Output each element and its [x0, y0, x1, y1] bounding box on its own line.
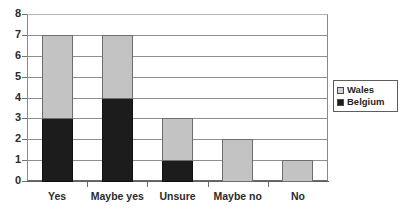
legend-label: Belgium	[347, 97, 384, 107]
x-axis-category-label: Unsure	[147, 190, 207, 202]
y-axis-tick	[22, 181, 27, 182]
y-axis-tick-label: 4	[7, 92, 21, 103]
y-axis-tick-label: 3	[7, 112, 21, 123]
bar-segment	[282, 160, 313, 182]
legend-item: Wales	[337, 84, 394, 96]
bar-segment	[102, 35, 133, 99]
y-axis-tick	[22, 77, 27, 78]
y-axis-tick-label: 1	[7, 154, 21, 165]
bar-segment	[42, 118, 73, 182]
gridline	[28, 56, 327, 57]
x-axis-category-label: Maybe no	[208, 190, 268, 202]
y-axis-tick-label: 6	[7, 50, 21, 61]
legend-item: Belgium	[337, 96, 394, 108]
bar-segment	[162, 160, 193, 182]
x-axis-category-label: Maybe yes	[87, 190, 147, 202]
bar-segment	[102, 98, 133, 183]
bar-segment	[42, 35, 73, 120]
gridline	[28, 98, 327, 99]
y-axis-tick	[22, 160, 27, 161]
x-axis-tick	[208, 182, 209, 187]
y-axis-tick-label: 0	[7, 175, 21, 186]
stacked-bar-chart: 012345678 WalesBelgium YesMaybe yesUnsur…	[0, 0, 405, 220]
y-axis-tick	[22, 98, 27, 99]
bar-segment	[162, 118, 193, 161]
legend-label: Wales	[347, 85, 374, 95]
x-axis-category-label: No	[268, 190, 328, 202]
y-axis-tick	[22, 118, 27, 119]
x-axis-tick	[268, 182, 269, 187]
gridline	[28, 77, 327, 78]
legend-swatch-icon	[337, 87, 344, 94]
legend-swatch-icon	[337, 99, 344, 106]
y-axis-tick	[22, 56, 27, 57]
y-axis-tick	[22, 14, 27, 15]
x-axis-tick	[147, 182, 148, 187]
y-axis-tick-label: 7	[7, 29, 21, 40]
chart-legend: WalesBelgium	[333, 80, 398, 112]
x-axis-tick	[87, 182, 88, 187]
y-axis-tick-label: 5	[7, 71, 21, 82]
y-axis-tick-label: 8	[7, 8, 21, 19]
gridline	[28, 35, 327, 36]
y-axis-labels: 012345678	[0, 0, 21, 220]
x-axis-category-label: Yes	[27, 190, 87, 202]
y-axis-tick-label: 2	[7, 133, 21, 144]
bar-segment	[222, 139, 253, 182]
y-axis-tick	[22, 139, 27, 140]
y-axis-tick	[22, 35, 27, 36]
